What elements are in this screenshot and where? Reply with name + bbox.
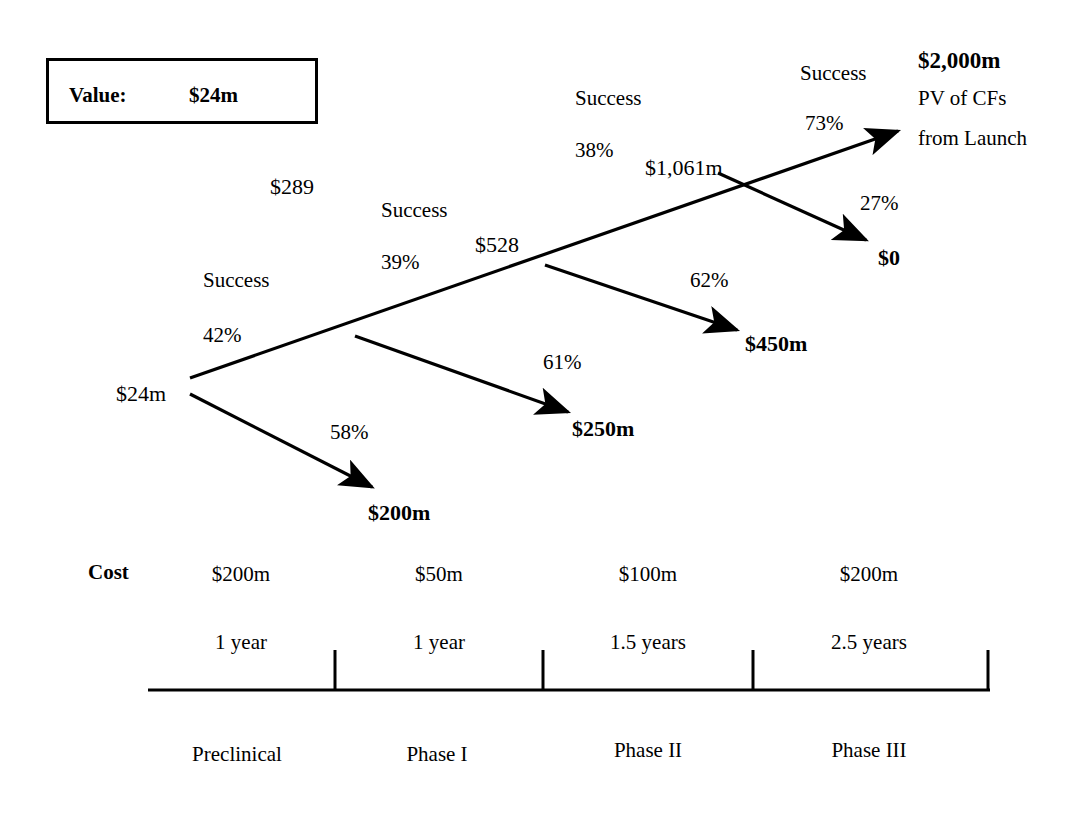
root-node-value: $24m [116,383,166,405]
branch-failure-phase-1 [355,336,568,412]
duration-phase-3: 2.5 years [831,630,907,655]
launch-note-line-1: PV of CFs [918,88,1006,109]
branch-failure-phase-3 [718,173,866,240]
terminal-payoff-2000m: $2,000m [918,49,1000,72]
value-box-amount: $24m [189,83,238,108]
node-value-528: $528 [475,234,519,256]
failure-prob-phase-1: 61% [543,352,582,373]
duration-phase-2: 1.5 years [610,630,686,655]
terminal-payoff-0: $0 [878,247,900,269]
phase-name-phase-1: Phase I [406,742,467,767]
success-prob-phase-3: 73% [805,113,844,134]
phase-name-phase-3: Phase III [831,738,906,763]
phase-name-phase-2: Phase II [614,738,682,763]
terminal-payoff-450m: $450m [745,333,807,355]
value-summary-box: Value: $24m [46,58,318,124]
success-label-phase-2: Success [575,88,642,109]
decision-tree-figure: Value: $24m $24m $289 $528 $1,061m Succe… [0,0,1089,813]
cost-preclinical: $200m [212,562,270,587]
phase-name-preclinical: Preclinical [192,742,282,767]
failure-prob-phase-3: 27% [860,193,899,214]
failure-prob-phase-2: 62% [690,270,729,291]
success-prob-phase-2: 38% [575,140,614,161]
cost-phase-3: $200m [840,562,898,587]
failure-prob-preclinical: 58% [330,422,369,443]
success-prob-phase-1: 39% [381,252,420,273]
node-value-1061: $1,061m [645,157,723,179]
cost-phase-2: $100m [619,562,677,587]
node-value-289: $289 [270,176,314,198]
success-label-phase-1: Success [381,200,448,221]
launch-note-line-2: from Launch [918,128,1027,149]
terminal-payoff-250m: $250m [572,418,634,440]
terminal-payoff-200m: $200m [368,502,430,524]
cost-row-label: Cost [88,562,129,583]
success-prob-preclinical: 42% [203,325,242,346]
cost-phase-1: $50m [415,562,463,587]
success-label-phase-3: Success [800,63,867,84]
success-label-preclinical: Success [203,270,270,291]
value-box-label: Value: [69,83,127,108]
duration-preclinical: 1 year [215,630,267,655]
duration-phase-1: 1 year [413,630,465,655]
